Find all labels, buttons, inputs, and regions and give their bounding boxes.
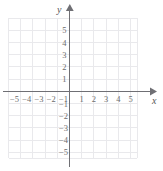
x-tick-label: −2 xyxy=(47,94,56,104)
x-tick-label: 3 xyxy=(104,94,108,104)
x-tick-label: −5 xyxy=(10,94,19,104)
y-tick-label: −2 xyxy=(59,111,68,121)
y-tick-label: −3 xyxy=(59,123,68,133)
y-axis-arrow-icon xyxy=(66,4,74,11)
y-tick-label: −1 xyxy=(59,99,68,109)
y-tick-label: 1 xyxy=(62,74,66,84)
x-tick-label: 5 xyxy=(128,94,132,104)
y-tick-label: −4 xyxy=(59,135,69,145)
x-axis-label: x xyxy=(151,95,157,106)
x-tick-label: 4 xyxy=(116,94,121,104)
x-tick-label: −3 xyxy=(34,94,43,104)
y-tick-label: 5 xyxy=(62,25,66,35)
horizontal-gridlines xyxy=(9,18,138,158)
y-tick-labels-negative: −1 −2 −3 −4 −5 xyxy=(59,99,69,158)
x-tick-label: 2 xyxy=(92,94,96,104)
y-tick-label: −5 xyxy=(59,147,68,157)
y-tick-label: 2 xyxy=(62,62,66,72)
coordinate-plane-svg: y x −5 −4 −3 −2 −1 1 2 3 4 5 5 4 3 2 1 −… xyxy=(0,0,163,171)
coordinate-plane-figure: y x −5 −4 −3 −2 −1 1 2 3 4 5 5 4 3 2 1 −… xyxy=(0,0,163,171)
x-tick-labels-positive: 1 2 3 4 5 xyxy=(80,94,133,104)
x-tick-label: −4 xyxy=(22,94,32,104)
x-tick-label: 1 xyxy=(80,94,84,104)
vertical-gridlines xyxy=(9,18,138,158)
y-axis-label: y xyxy=(56,4,62,15)
y-tick-label: 3 xyxy=(62,50,66,60)
